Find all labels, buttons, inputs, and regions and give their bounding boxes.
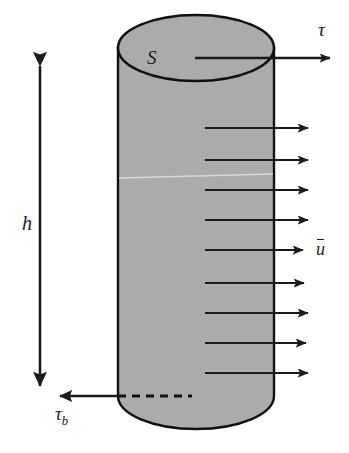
cylinder-shape [118,15,274,429]
diagram-canvas: S h τ τb u [0,0,349,453]
cylinder-body [118,48,274,429]
top-shear-label: τ [318,20,325,39]
bed-shear-subscript: b [62,413,68,428]
cylinder-diagram-svg [0,0,349,453]
surface-area-label: S [147,48,157,67]
bed-shear-label: τb [55,404,68,428]
cylinder-top-cap [118,15,274,81]
mean-velocity-symbol: u [316,238,325,258]
height-label: h [22,213,32,233]
bed-shear-symbol: τ [55,403,62,424]
mean-velocity-label: u [316,238,325,258]
